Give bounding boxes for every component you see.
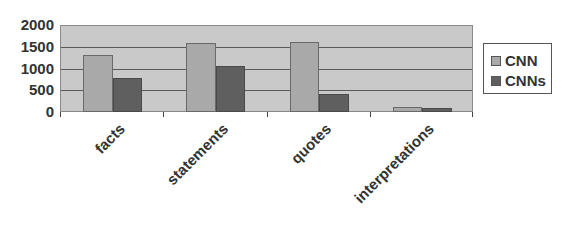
bar-chart: 0500100015002000 factsstatementsquotesin… [0, 0, 569, 232]
legend-label: CNN [505, 52, 538, 69]
x-tick [267, 112, 268, 117]
bar-cnn-statements [186, 43, 216, 112]
legend-item-cnns: CNNs [491, 72, 546, 89]
plot-area [60, 25, 473, 112]
x-tick-label: statements [163, 120, 231, 188]
legend-label: CNNs [505, 72, 546, 89]
bar-cnn-quotes [290, 42, 320, 112]
legend-swatch-cnn [491, 56, 501, 66]
bar-cnns-interpretations [422, 108, 452, 112]
bar-cnn-facts [83, 55, 113, 112]
legend-swatch-cnns [491, 76, 501, 86]
legend-item-cnn: CNN [491, 52, 538, 69]
legend: CNN CNNs [483, 43, 552, 94]
bar-cnns-quotes [319, 94, 349, 112]
x-tick-label: interpretations [351, 120, 437, 206]
bar-cnns-statements [216, 66, 246, 112]
gridline [61, 69, 472, 70]
y-tick-label: 1500 [21, 39, 54, 54]
gridline [61, 47, 472, 48]
x-tick [370, 112, 371, 117]
x-tick [472, 112, 473, 117]
x-tick-label: quotes [288, 120, 335, 167]
x-tick [60, 112, 61, 117]
bar-cnn-interpretations [393, 107, 423, 112]
y-tick-label: 500 [29, 82, 54, 97]
y-tick-label: 2000 [21, 17, 54, 32]
bar-cnns-facts [113, 78, 143, 112]
x-tick-label: facts [91, 120, 128, 157]
y-tick-label: 0 [46, 104, 54, 119]
x-tick [163, 112, 164, 117]
y-tick-label: 1000 [21, 61, 54, 76]
